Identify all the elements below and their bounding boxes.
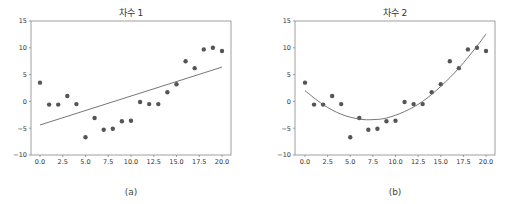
data-point [38, 80, 42, 84]
x-tick-label: 12.5 [147, 158, 161, 166]
y-tick-label: 10 [19, 44, 27, 52]
data-point [111, 127, 115, 131]
data-point [129, 118, 133, 122]
y-tick-label: −5 [17, 125, 27, 133]
x-tick-label: 7.5 [103, 158, 113, 166]
data-point [165, 90, 169, 94]
chart-title: 차수 1 [119, 7, 144, 18]
x-tick-label: 15.0 [434, 158, 448, 166]
data-point [92, 116, 96, 120]
y-tick-label: 5 [287, 71, 291, 79]
data-point [211, 46, 215, 50]
subfigure-caption: (a) [125, 187, 138, 197]
y-tick-label: 15 [19, 17, 27, 25]
chart-title: 차수 2 [383, 7, 408, 18]
data-point [65, 94, 69, 98]
fit-line [305, 34, 486, 120]
data-point [147, 102, 151, 106]
data-point [402, 100, 406, 104]
data-point [348, 135, 352, 139]
data-point [375, 127, 379, 131]
figure: 차수 1−10−50510150.02.55.07.510.012.515.01… [0, 0, 509, 204]
data-point [102, 128, 106, 132]
y-tick-label: 10 [283, 44, 291, 52]
data-point [174, 82, 178, 86]
x-tick-label: 17.5 [456, 158, 470, 166]
x-tick-label: 0.0 [300, 158, 310, 166]
data-point [220, 49, 224, 53]
data-point [120, 119, 124, 123]
x-tick-label: 2.5 [58, 158, 68, 166]
x-tick-label: 12.5 [411, 158, 425, 166]
y-tick-label: 0 [287, 98, 291, 106]
x-tick-label: 20.0 [215, 158, 229, 166]
y-tick-label: 0 [23, 98, 27, 106]
x-tick-label: 20.0 [479, 158, 493, 166]
axes-frame [31, 21, 231, 155]
y-tick-label: −10 [13, 151, 27, 159]
y-tick-label: 5 [23, 71, 27, 79]
data-point [74, 102, 78, 106]
data-point [411, 102, 415, 106]
x-tick-label: 5.0 [80, 158, 90, 166]
data-point [384, 119, 388, 123]
data-point [83, 135, 87, 139]
x-tick-label: 10.0 [124, 158, 138, 166]
y-tick-label: −5 [281, 125, 291, 133]
data-point [466, 47, 470, 51]
x-tick-label: 10.0 [388, 158, 402, 166]
data-point [484, 49, 488, 53]
data-point [183, 59, 187, 63]
data-point [202, 47, 206, 51]
data-point [366, 128, 370, 132]
data-point [312, 102, 316, 106]
y-tick-label: 15 [283, 17, 291, 25]
y-tick-label: −10 [277, 151, 291, 159]
x-tick-label: 5.0 [345, 158, 355, 166]
data-point [56, 102, 60, 106]
x-tick-label: 17.5 [192, 158, 206, 166]
x-tick-label: 0.0 [35, 158, 45, 166]
data-point [448, 59, 452, 63]
data-point [156, 102, 160, 106]
data-point [339, 102, 343, 106]
subplot-1: 차수 1−10−50510150.02.55.07.510.012.515.01… [13, 7, 231, 197]
x-tick-label: 15.0 [169, 158, 183, 166]
data-point [393, 118, 397, 122]
data-point [47, 102, 51, 106]
axes-frame [295, 21, 495, 155]
data-point [193, 66, 197, 70]
subplot-2: 차수 2−10−50510150.02.55.07.510.012.515.01… [277, 7, 495, 197]
subfigure-caption: (b) [389, 187, 402, 197]
x-tick-label: 7.5 [368, 158, 378, 166]
data-point [330, 94, 334, 98]
data-point [303, 80, 307, 84]
data-point [138, 100, 142, 104]
x-tick-label: 2.5 [322, 158, 332, 166]
